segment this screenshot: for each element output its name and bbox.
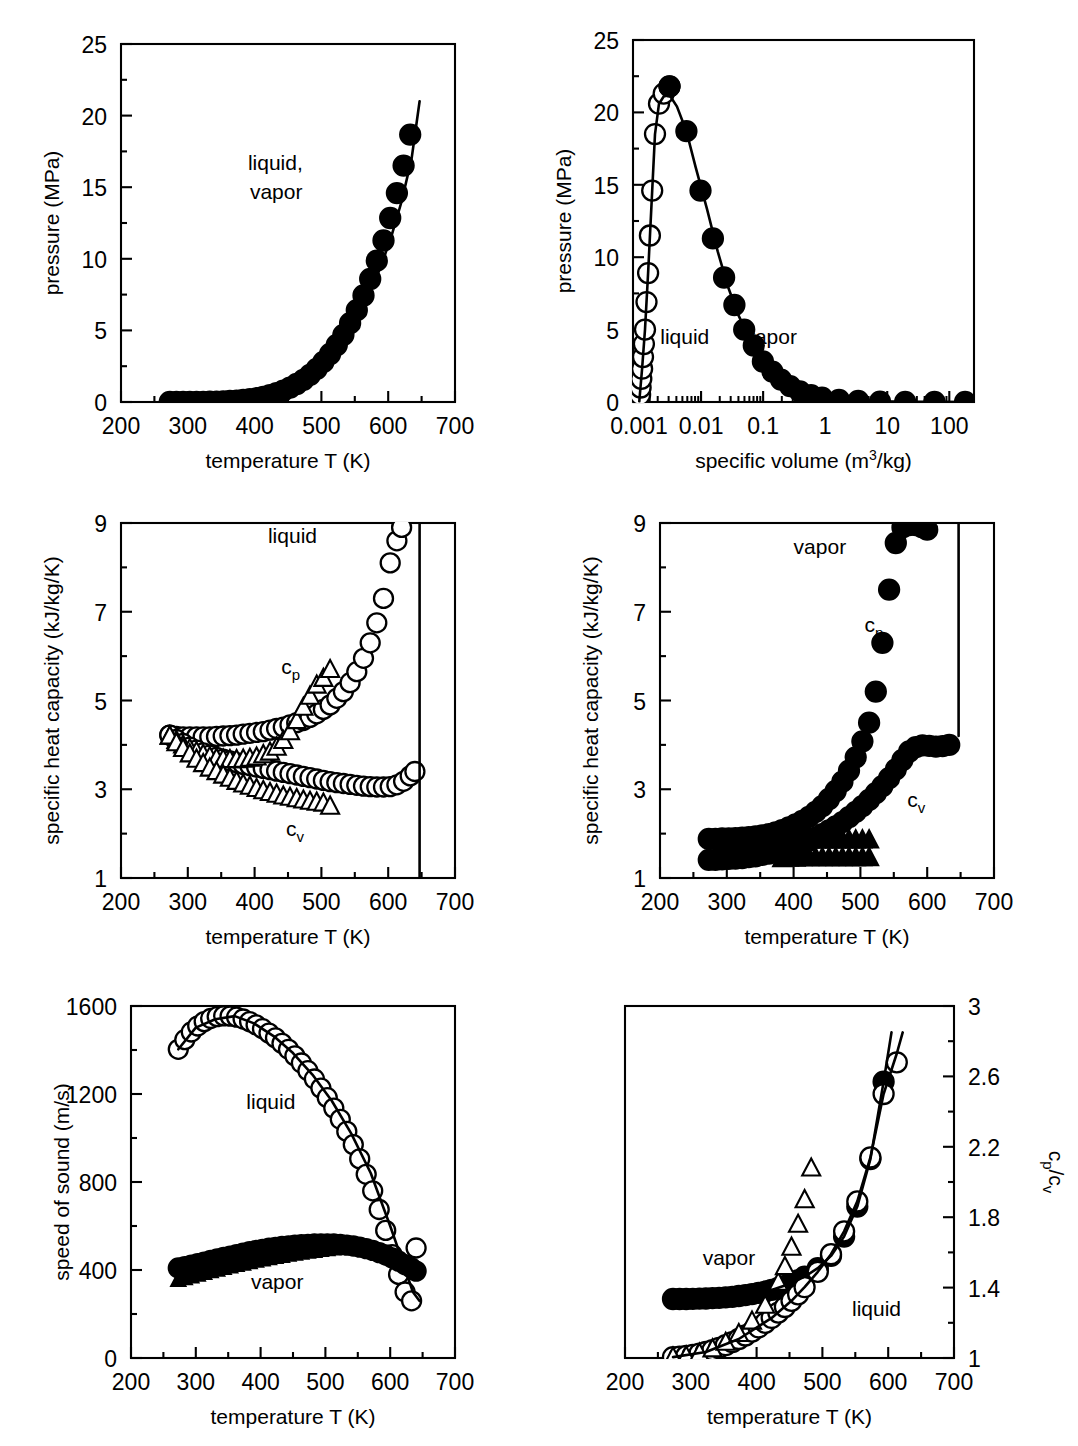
panel-6-chart: 20030040050060070011.41.82.22.63vaporliq… <box>539 960 1078 1446</box>
plot-annotation: cv <box>907 788 926 816</box>
y-tick-label: 7 <box>94 600 107 626</box>
plot-annotation: cp <box>281 655 300 683</box>
y-tick-label: 5 <box>94 689 107 715</box>
x-axis-label: temperature T (K) <box>707 1405 872 1428</box>
data-point <box>917 520 937 540</box>
y-axis-label: pressure (MPa) <box>40 151 63 296</box>
x-axis-label: temperature T (K) <box>211 1405 376 1428</box>
plot-annotation: liquid <box>852 1297 901 1320</box>
x-tick-label: 600 <box>369 889 407 915</box>
data-point <box>387 183 407 203</box>
x-tick-label: 400 <box>241 1369 279 1395</box>
data-point <box>381 553 400 572</box>
y-tick-label: 3 <box>968 994 981 1020</box>
series-layer <box>629 76 975 412</box>
y-tick-label: 0 <box>94 390 107 416</box>
data-point <box>407 1262 426 1281</box>
x-tick-label: 0.1 <box>747 413 779 439</box>
x-tick-label: 0.01 <box>679 413 724 439</box>
x-tick-label: 500 <box>302 889 340 915</box>
y-tick-label: 3 <box>633 777 646 803</box>
data-point <box>796 1190 814 1207</box>
data-point <box>392 518 411 537</box>
data-point <box>939 735 959 755</box>
figure-canvas: 2003004005006007000510152025liquid,vapor… <box>0 0 1078 1446</box>
x-tick-label: 200 <box>102 413 140 439</box>
y-tick-label: 25 <box>593 28 619 54</box>
y-tick-label: 0 <box>606 390 619 416</box>
plot-frame <box>121 44 455 402</box>
data-point <box>374 231 394 251</box>
y-axis-label: pressure (MPa) <box>552 149 575 294</box>
data-point <box>776 1257 794 1274</box>
y-tick-label: 25 <box>81 32 107 58</box>
x-tick-label: 500 <box>803 1369 841 1395</box>
x-tick-label: 300 <box>169 889 207 915</box>
plot-annotation: vapor <box>250 180 303 203</box>
x-tick-label: 200 <box>606 1369 644 1395</box>
x-tick-label: 500 <box>841 889 879 915</box>
y-tick-label: 10 <box>593 245 619 271</box>
x-tick-label: 600 <box>369 413 407 439</box>
data-point <box>879 580 899 600</box>
data-point <box>660 76 680 96</box>
y-tick-label: 800 <box>79 1170 117 1196</box>
data-point <box>361 633 380 652</box>
plot-annotation: vapor <box>251 1270 304 1293</box>
y-tick-label: 2.6 <box>968 1064 1000 1090</box>
data-point <box>380 208 400 228</box>
x-tick-label: 700 <box>436 889 474 915</box>
x-tick-label: 700 <box>436 1369 474 1395</box>
y-tick-label: 5 <box>633 689 646 715</box>
data-point <box>394 156 414 176</box>
x-tick-label: 400 <box>774 889 812 915</box>
x-tick-label: 300 <box>708 889 746 915</box>
y-tick-label: 1200 <box>66 1082 117 1108</box>
x-tick-label: 100 <box>930 413 968 439</box>
data-point <box>360 269 380 289</box>
data-point <box>367 613 386 632</box>
series-layer <box>699 515 959 870</box>
panel-2-chart: 0.0010.010.11101000510152025liquidvapors… <box>539 0 1078 482</box>
data-point <box>782 1238 800 1255</box>
y-tick-label: 0 <box>104 1346 117 1372</box>
plot-annotation: liquid <box>268 524 317 547</box>
data-point <box>407 1239 426 1258</box>
data-point <box>405 762 424 781</box>
x-tick-label: 700 <box>935 1369 973 1395</box>
x-axis-label: temperature T (K) <box>206 449 371 472</box>
data-point <box>400 125 420 145</box>
data-point <box>859 713 879 733</box>
data-point <box>866 682 886 702</box>
y-tick-label: 2.2 <box>968 1135 1000 1161</box>
plot-annotation: vapor <box>703 1246 756 1269</box>
x-tick-label: 1 <box>819 413 832 439</box>
panel-1-chart: 2003004005006007000510152025liquid,vapor… <box>0 0 539 482</box>
x-tick-label: 0.001 <box>610 413 668 439</box>
y-tick-label: 1 <box>968 1346 981 1372</box>
y-tick-label: 7 <box>633 600 646 626</box>
y-tick-label: 1 <box>94 866 107 892</box>
plot-annotation: liquid <box>660 325 709 348</box>
x-tick-label: 400 <box>235 889 273 915</box>
x-tick-label: 600 <box>869 1369 907 1395</box>
x-axis-label: specific volume (m3/kg) <box>695 447 912 472</box>
x-tick-label: 700 <box>436 413 474 439</box>
y-tick-label: 15 <box>593 173 619 199</box>
y-tick-label: 10 <box>81 247 107 273</box>
y-tick-label: 3 <box>94 777 107 803</box>
y-tick-label: 5 <box>606 318 619 344</box>
y-axis-label: specific heat capacity (kJ/kg/K) <box>579 556 602 844</box>
x-tick-label: 500 <box>302 413 340 439</box>
y-tick-label: 9 <box>94 511 107 537</box>
y-axis-label: specific heat capacity (kJ/kg/K) <box>40 556 63 844</box>
x-tick-label: 300 <box>177 1369 215 1395</box>
x-tick-label: 500 <box>306 1369 344 1395</box>
y-tick-label: 400 <box>79 1258 117 1284</box>
series-layer <box>169 1006 426 1310</box>
y-tick-label: 1 <box>633 866 646 892</box>
x-tick-label: 10 <box>874 413 900 439</box>
y-tick-label: 9 <box>633 511 646 537</box>
y-tick-label: 1.4 <box>968 1276 1000 1302</box>
panel-5-chart: 200300400500600700040080012001600liquidv… <box>0 960 539 1446</box>
